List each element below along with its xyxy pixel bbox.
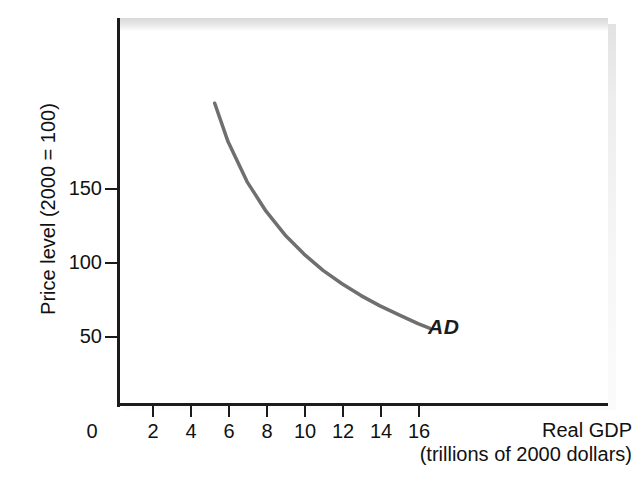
caption-remnant bbox=[26, 0, 146, 6]
x-axis-tick-label-6: 6 bbox=[223, 420, 234, 442]
y-axis-tick-50 bbox=[105, 336, 118, 338]
x-axis-title: Real GDP (trillions of 2000 dollars) bbox=[370, 418, 632, 466]
x-axis-tick-label-8: 8 bbox=[261, 420, 272, 442]
x-axis-tick-label-12: 12 bbox=[332, 420, 354, 442]
x-axis-tick-label-4: 4 bbox=[185, 420, 196, 442]
ad-curve-label: AD bbox=[428, 315, 459, 339]
y-axis-title: Price level (2000 = 100) bbox=[37, 79, 59, 339]
x-axis-tick-2 bbox=[152, 406, 154, 417]
x-axis-tick-label-2: 2 bbox=[147, 420, 158, 442]
x-axis-title-units: (trillions of 2000 dollars) bbox=[370, 442, 632, 466]
x-axis-title-main: Real GDP bbox=[370, 418, 632, 442]
x-axis-tick-16 bbox=[418, 406, 420, 417]
x-axis-tick-12 bbox=[342, 406, 344, 417]
x-axis-tick-10 bbox=[304, 406, 306, 417]
y-axis-tick-100 bbox=[105, 262, 118, 264]
x-axis-tick-14 bbox=[380, 406, 382, 417]
x-axis-tick-6 bbox=[228, 406, 230, 417]
plot-top-gradient-band bbox=[119, 18, 608, 31]
x-axis-tick-8 bbox=[266, 406, 268, 417]
y-axis-tick-150 bbox=[105, 188, 118, 190]
y-axis-line bbox=[117, 18, 120, 407]
x-axis-tick-label-10: 10 bbox=[294, 420, 316, 442]
plot-area bbox=[118, 18, 608, 404]
x-axis-tick-4 bbox=[190, 406, 192, 417]
figure-container: 150 100 50 Price level (2000 = 100) 0 2 … bbox=[0, 0, 638, 490]
x-axis-tick-label-0: 0 bbox=[86, 420, 97, 442]
